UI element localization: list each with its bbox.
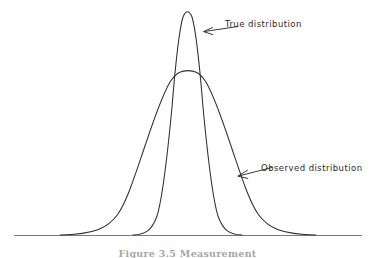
figure-caption-text: Figure 3.5 Measurement (118, 249, 256, 258)
true-distribution-curve (133, 12, 242, 235)
distribution-plot (0, 0, 375, 258)
figure-caption: Figure 3.5 Measurement (0, 249, 375, 258)
observed-distribution-curve (60, 71, 316, 235)
observed-distribution-label: Observed distribution (261, 164, 363, 173)
true-distribution-label: True distribution (225, 20, 302, 29)
figure-container: True distribution Observed distribution … (0, 0, 375, 258)
